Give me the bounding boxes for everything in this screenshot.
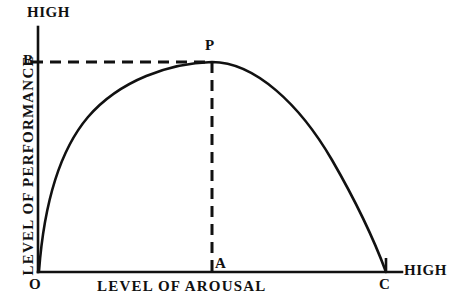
performance-curve (39, 62, 386, 272)
peak-point-p-label: P (205, 37, 215, 54)
arousal-performance-figure: HIGH B O P A C HIGH LEVEL OF AROUSAL LEV… (0, 0, 458, 304)
x-axis-point-a-label: A (215, 255, 226, 272)
x-axis-title: LEVEL OF AROUSAL (97, 278, 267, 295)
y-axis-high-label: HIGH (27, 4, 70, 21)
x-axis-high-label: HIGH (404, 262, 447, 279)
y-axis-title: LEVEL OF PERFORMANCE (20, 96, 37, 276)
x-axis-point-c-label: C (379, 276, 390, 293)
plot-canvas (0, 0, 458, 304)
origin-label: O (29, 276, 41, 293)
